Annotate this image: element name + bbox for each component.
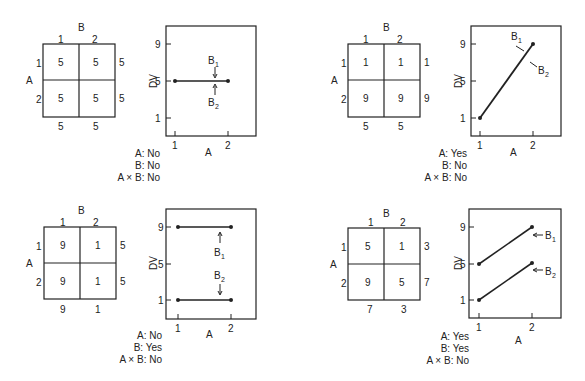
svg-text:2: 2 xyxy=(400,217,406,228)
svg-text:B: B xyxy=(538,65,545,76)
svg-text:1: 1 xyxy=(399,241,405,252)
svg-text:2: 2 xyxy=(221,276,225,283)
svg-text:5: 5 xyxy=(120,276,126,287)
svg-text:5: 5 xyxy=(93,93,99,104)
svg-text:B: B xyxy=(383,22,390,33)
svg-text:9: 9 xyxy=(60,276,66,287)
svg-text:9: 9 xyxy=(363,93,369,104)
svg-text:2: 2 xyxy=(397,34,403,45)
svg-text:1: 1 xyxy=(460,295,466,306)
svg-text:5: 5 xyxy=(58,121,64,132)
svg-text:5: 5 xyxy=(363,121,369,132)
svg-text:A: A xyxy=(510,147,517,158)
svg-text:B: B xyxy=(208,97,215,108)
svg-text:9: 9 xyxy=(158,222,164,233)
svg-text:5: 5 xyxy=(120,240,126,251)
svg-text:2: 2 xyxy=(93,217,99,228)
svg-text:B: B xyxy=(78,22,85,33)
effects-summary: A: Yes B: Yes A × B: No xyxy=(405,331,469,367)
svg-text:1: 1 xyxy=(155,113,161,124)
svg-text:2: 2 xyxy=(215,103,219,110)
svg-text:7: 7 xyxy=(424,277,430,288)
svg-text:1: 1 xyxy=(552,236,556,243)
effect-a: A: No xyxy=(100,148,160,160)
svg-text:B: B xyxy=(545,230,552,241)
svg-text:2: 2 xyxy=(530,140,536,151)
svg-text:5: 5 xyxy=(398,121,404,132)
svg-text:1: 1 xyxy=(476,322,482,333)
svg-text:1: 1 xyxy=(58,34,64,45)
svg-text:1: 1 xyxy=(363,57,369,68)
svg-text:1: 1 xyxy=(36,241,42,252)
effect-a: A: No xyxy=(100,330,162,342)
effect-b: B: No xyxy=(405,160,467,172)
svg-text:1: 1 xyxy=(477,140,483,151)
svg-text:B: B xyxy=(78,205,85,216)
effect-b: B: No xyxy=(100,160,160,172)
svg-text:2: 2 xyxy=(341,278,347,289)
panel-bottom-right: B 1 2 1 2 A 5 1 9 5 3 7 7 3 9 5 1 1 2 A … xyxy=(305,190,585,380)
panel-bottom-left: B 1 2 1 2 A 9 1 9 1 5 5 9 1 9 5 1 1 2 A … xyxy=(0,190,292,380)
effect-b: B: Yes xyxy=(405,343,469,355)
svg-text:5: 5 xyxy=(58,57,64,68)
svg-text:9: 9 xyxy=(60,304,66,315)
svg-text:1: 1 xyxy=(215,61,219,68)
svg-text:5: 5 xyxy=(93,57,99,68)
svg-text:2: 2 xyxy=(225,140,231,151)
svg-text:1: 1 xyxy=(172,140,178,151)
svg-text:1: 1 xyxy=(398,57,404,68)
effect-axb: A × B: No xyxy=(405,355,469,367)
effects-summary: A: Yes B: No A × B: No xyxy=(405,148,467,184)
svg-text:2: 2 xyxy=(545,71,549,78)
svg-text:B: B xyxy=(383,208,390,219)
svg-text:1: 1 xyxy=(95,240,101,251)
svg-text:DV: DV xyxy=(453,74,464,88)
svg-text:7: 7 xyxy=(367,304,373,315)
svg-text:B: B xyxy=(545,266,552,277)
svg-text:1: 1 xyxy=(518,37,522,44)
effects-summary: A: No B: Yes A × B: No xyxy=(100,330,162,366)
svg-text:A: A xyxy=(206,329,213,340)
effect-axb: A × B: No xyxy=(405,172,467,184)
svg-text:5: 5 xyxy=(93,121,99,132)
svg-text:B: B xyxy=(214,247,221,258)
svg-text:A: A xyxy=(331,75,338,86)
svg-text:1: 1 xyxy=(175,323,181,334)
svg-text:1: 1 xyxy=(95,304,101,315)
svg-text:9: 9 xyxy=(460,39,466,50)
effect-a: A: Yes xyxy=(405,148,467,160)
svg-text:B: B xyxy=(208,55,215,66)
panel-top-left: B 1 2 1 2 A 5 5 5 5 5 5 5 5 9 5 1 1 2 A … xyxy=(0,0,292,190)
svg-text:3: 3 xyxy=(401,304,407,315)
svg-text:2: 2 xyxy=(228,323,234,334)
svg-text:9: 9 xyxy=(424,93,430,104)
svg-text:9: 9 xyxy=(398,93,404,104)
effect-axb: A × B: No xyxy=(100,354,162,366)
svg-text:2: 2 xyxy=(92,34,98,45)
panel-top-right: B 1 2 1 2 A 1 1 9 9 1 9 5 5 9 5 1 1 2 A … xyxy=(305,0,585,190)
svg-text:5: 5 xyxy=(365,241,371,252)
svg-text:A: A xyxy=(26,258,33,269)
svg-text:5: 5 xyxy=(119,93,125,104)
svg-text:9: 9 xyxy=(365,277,371,288)
svg-text:1: 1 xyxy=(341,242,347,253)
svg-text:1: 1 xyxy=(221,253,225,260)
svg-text:DV: DV xyxy=(148,74,159,88)
svg-text:B: B xyxy=(511,31,518,42)
effect-a: A: Yes xyxy=(405,331,469,343)
svg-text:DV: DV xyxy=(453,256,464,270)
svg-text:A: A xyxy=(26,75,33,86)
svg-text:9: 9 xyxy=(155,39,161,50)
svg-text:1: 1 xyxy=(341,58,347,69)
svg-text:5: 5 xyxy=(119,57,125,68)
svg-text:1: 1 xyxy=(363,34,369,45)
effects-summary: A: No B: No A × B: No xyxy=(100,148,160,184)
effect-b: B: Yes xyxy=(100,342,162,354)
svg-text:5: 5 xyxy=(58,93,64,104)
effect-axb: A × B: No xyxy=(100,172,160,184)
svg-text:2: 2 xyxy=(36,277,42,288)
svg-text:1: 1 xyxy=(60,217,66,228)
svg-text:5: 5 xyxy=(399,277,405,288)
svg-text:3: 3 xyxy=(424,241,430,252)
svg-text:B: B xyxy=(214,270,221,281)
